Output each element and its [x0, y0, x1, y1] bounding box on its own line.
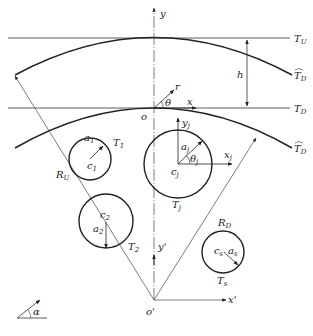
label-TU: TU [294, 33, 308, 46]
label-TD-arc-lower: TD [294, 143, 307, 156]
label-x: x [187, 96, 193, 107]
label-c1: c1 [87, 160, 97, 173]
label-RU: RU [55, 169, 71, 182]
label-T2: T2 [128, 241, 140, 254]
label-cj: cj [171, 166, 180, 179]
label-Tj: Tj [172, 199, 182, 212]
label-Ts: Ts [217, 275, 228, 288]
label-aj: aj [181, 141, 190, 154]
label-xj: xj [224, 149, 233, 162]
label-cs: cs [214, 245, 224, 258]
label-TD: TD [294, 103, 307, 116]
arc-lower [15, 108, 292, 148]
label-yj: yj [181, 117, 191, 130]
label-y-prime: y' [157, 241, 166, 252]
label-a1: a1 [84, 132, 94, 145]
label-alpha: α [33, 306, 40, 317]
RD-line [154, 138, 256, 300]
label-x-prime: x' [228, 294, 236, 305]
label-h: h [237, 69, 243, 80]
label-RD: RD [217, 217, 232, 230]
label-as: as [228, 245, 238, 258]
label-TD-arc-upper: TD [294, 70, 307, 83]
label-o-prime: o' [146, 306, 155, 317]
label-c2: c2 [100, 209, 111, 222]
label-a2: a2 [93, 223, 104, 236]
label-o: o [141, 111, 147, 122]
label-theta: θ [165, 97, 171, 108]
diagram-svg: y TU TD TD TD h r θ x o a1 c1 T1 yj aj θ… [0, 0, 313, 336]
label-y: y [159, 8, 166, 19]
arc-upper [15, 38, 292, 76]
label-T1: T1 [113, 137, 124, 150]
label-r: r [175, 81, 181, 92]
diagram-canvas: y TU TD TD TD h r θ x o a1 c1 T1 yj aj θ… [0, 0, 313, 336]
